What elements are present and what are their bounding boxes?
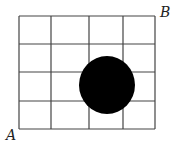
- label-a: A: [4, 127, 16, 143]
- black-disk: [79, 56, 135, 114]
- label-b: B: [159, 4, 170, 20]
- grid-diagram: A B: [0, 0, 175, 149]
